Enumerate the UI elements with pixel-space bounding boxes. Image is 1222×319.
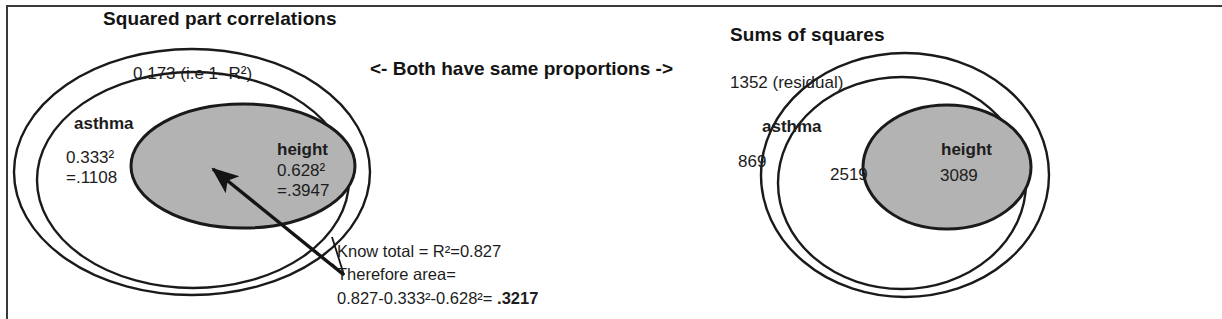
right-venn-graphic — [640, 0, 1222, 319]
left-venn-panel: Squared part correlations 0.173 (i.e 1- … — [0, 0, 640, 319]
figure-canvas: Squared part correlations 0.173 (i.e 1- … — [0, 0, 1222, 319]
right-venn-panel: Sums of squares 1352 (residual) asthma 8… — [640, 0, 1222, 319]
right-asthma-name: asthma — [762, 117, 822, 137]
left-height-name: height — [277, 140, 328, 160]
left-asthma-value: 0.333² =.1108 — [66, 148, 117, 188]
left-note-line-3-prefix: 0.827-0.333²-0.628²= — [337, 289, 497, 307]
right-residual-label: 1352 (residual) — [730, 73, 843, 93]
left-asthma-value-line1: 0.333² — [66, 148, 117, 168]
left-note-line-3-value: .3217 — [497, 289, 538, 307]
right-intersection-value: 2519 — [830, 165, 868, 185]
right-height-only-value: 3089 — [940, 166, 978, 186]
left-asthma-name: asthma — [74, 114, 134, 134]
left-callout-note: Know total = R²=0.827 Therefore area= 0.… — [337, 240, 538, 310]
left-note-line-2: Therefore area= — [337, 263, 538, 286]
left-height-value: 0.628² =.3947 — [277, 161, 329, 201]
right-asthma-value: 869 — [738, 152, 766, 172]
left-asthma-value-line2: =.1108 — [66, 168, 117, 188]
left-note-line-3: 0.827-0.333²-0.628²= .3217 — [337, 287, 538, 310]
left-residual-label: 0.173 (i.e 1- R²) — [133, 64, 252, 84]
right-height-name: height — [941, 140, 992, 160]
left-note-line-1: Know total = R²=0.827 — [337, 240, 538, 263]
left-height-value-line2: =.3947 — [277, 181, 329, 201]
left-height-value-line1: 0.628² — [277, 161, 329, 181]
middle-caption: <- Both have same proportions -> — [370, 58, 673, 80]
